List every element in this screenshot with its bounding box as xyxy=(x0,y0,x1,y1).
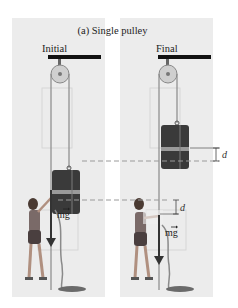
displacement-marker-suitcase xyxy=(213,148,219,161)
rope-slack-initial xyxy=(55,210,63,288)
weight-label-initial: mg xyxy=(57,209,70,220)
pulley-assembly-final xyxy=(158,55,211,290)
displacement-marker-hand xyxy=(173,200,179,214)
displacement-label-suitcase: d xyxy=(222,149,228,160)
ceiling-beam xyxy=(158,55,211,59)
background-wall-left xyxy=(38,88,78,250)
pulley-diagram: mg mg xyxy=(0,0,238,308)
suitcase-initial xyxy=(52,166,80,214)
rope-coil-final xyxy=(166,286,194,292)
displacement-label-hand: d xyxy=(180,202,186,213)
ceiling-beam xyxy=(48,55,101,59)
reference-lines xyxy=(58,161,220,200)
weight-label-final: mg xyxy=(165,227,178,238)
rope-coil-initial xyxy=(58,286,86,292)
suitcase-final xyxy=(161,121,189,169)
